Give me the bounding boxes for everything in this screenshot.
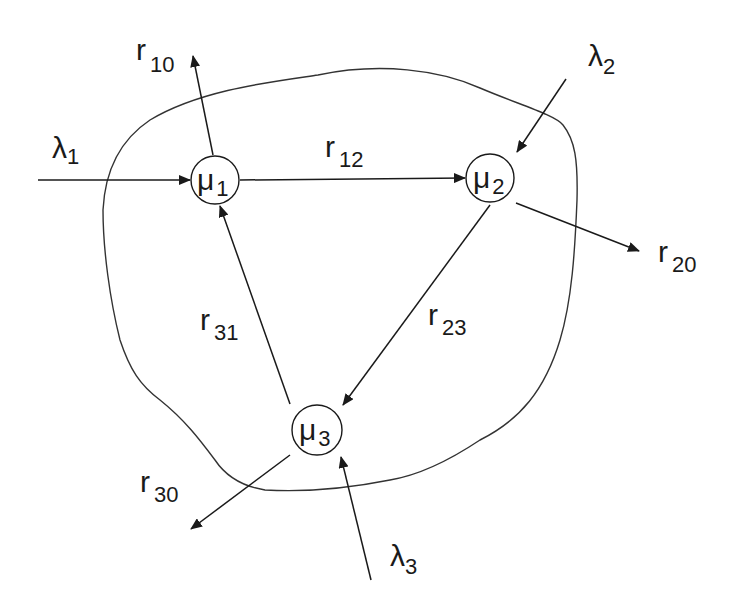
label-r23: r23 xyxy=(428,298,466,340)
node-mu1: μ1 xyxy=(191,156,239,204)
arrow-r31 xyxy=(220,206,290,404)
label-lambda1: λ1 xyxy=(52,131,79,169)
queueing-network-diagram: μ1 μ2 μ3 λ1 r10 r12 λ2 r20 r31 r23 r30 λ… xyxy=(0,0,735,616)
label-r10: r10 xyxy=(136,33,174,77)
arrow-lambda2 xyxy=(517,79,566,152)
node-mu2: μ2 xyxy=(466,154,514,202)
label-r30: r30 xyxy=(140,465,178,507)
arrow-r12 xyxy=(240,178,465,180)
arrow-r23 xyxy=(343,205,490,405)
label-r20: r20 xyxy=(658,235,696,277)
arrow-r20 xyxy=(516,203,639,251)
label-lambda3: λ3 xyxy=(390,539,417,579)
label-lambda2: λ2 xyxy=(588,39,615,79)
node-mu3: μ3 xyxy=(292,405,342,455)
label-r12: r12 xyxy=(325,130,363,172)
arrow-r30 xyxy=(191,455,290,529)
label-r31: r31 xyxy=(200,303,238,345)
arrow-r10 xyxy=(193,56,213,155)
arrow-lambda3 xyxy=(341,457,371,580)
